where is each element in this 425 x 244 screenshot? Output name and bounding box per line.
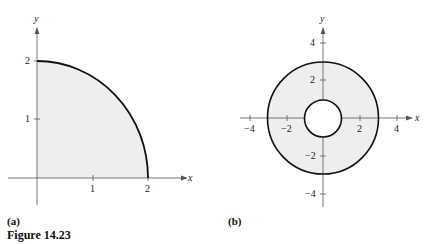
y-axis-label: y [320,13,324,24]
x-tick-label: −4 [244,123,255,134]
y-axis-arrow [35,27,40,34]
y-tick-label: 4 [310,37,315,48]
panel-b-plot [240,27,413,207]
x-tick-label: 4 [394,123,399,134]
y-tick-label: 1 [25,113,30,124]
y-tick-label: 2 [310,74,315,85]
inner-circle [305,100,342,137]
x-axis-arrow [181,176,188,181]
y-tick-label: −4 [305,188,316,199]
figure-canvas [0,0,425,244]
x-tick-label: 1 [90,183,95,194]
quarter-disk-region [37,61,148,178]
y-axis-label: y [34,13,38,24]
figure-caption: Figure 14.23 [7,228,71,243]
x-tick-label: 2 [357,123,362,134]
x-tick-label: −2 [281,123,292,134]
panel-label-a: (a) [7,215,20,227]
x-axis-label: x [415,112,419,123]
x-axis-label: x [188,172,192,183]
panel-label-b: (b) [228,215,241,227]
y-tick-label: −2 [305,150,316,161]
x-tick-label: 2 [145,183,150,194]
panel-a-plot [8,27,188,205]
y-tick-label: 2 [25,55,30,66]
